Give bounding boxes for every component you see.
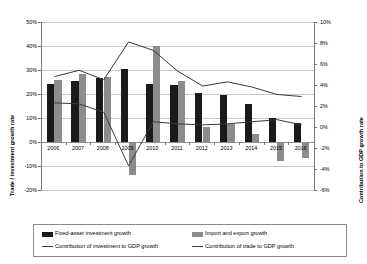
y-axis-left-tick-label: 10% [15,115,37,121]
x-axis-tick-mark [214,142,215,145]
y-axis-left-tick-label: 0% [15,139,37,145]
y-axis-right-tick-mark [314,106,317,107]
x-axis-tick-label: 2016 [288,145,314,151]
y-axis-title-right: Contribution to GDP growth rate [358,117,364,203]
y-axis-left-tick-mark [38,190,41,191]
x-axis-tick-label: 2013 [213,145,239,151]
chart-legend: Fixed-asset investment growth Import and… [33,224,347,257]
x-axis-tick-label: 2014 [238,145,264,151]
x-axis-tick-label: 2007 [65,145,91,151]
y-axis-right-tick-label: 10% [320,19,342,25]
y-axis-right-tick-label: 2% [320,103,342,109]
y-axis-right-tick-label: 0% [320,124,342,130]
x-axis-tick-label: 2015 [263,145,289,151]
x-axis-tick-mark [165,142,166,145]
line-series [54,103,301,166]
x-axis-tick-mark [90,142,91,145]
y-axis-right-tick-label: 6% [320,61,342,67]
x-axis-tick-label: 2012 [189,145,215,151]
y-axis-right-tick-mark [314,43,317,44]
line-group [42,22,314,190]
y-axis-right-tick-mark [314,85,317,86]
x-axis-tick-label: 2009 [115,145,141,151]
y-axis-right-tick-mark [314,190,317,191]
legend-swatch-investment-contribution [42,246,53,247]
y-axis-left-tick-mark [38,70,41,71]
legend-swatch-trade-contribution [192,246,203,247]
legend-label-investment-contribution: Contribution of investment to GDP growth [55,243,158,249]
y-axis-right-tick-label: 4% [320,82,342,88]
y-axis-left-tick-mark [38,94,41,95]
legend-label-fixed-asset: Fixed-asset investment growth [55,230,131,236]
x-axis-tick-mark [189,142,190,145]
y-axis-right-tick-mark [314,169,317,170]
y-axis-right-tick-label: -2% [320,145,342,151]
legend-label-trade-contribution: Contribution of trade to GDP growth [205,243,294,249]
x-axis-tick-label: 2011 [164,145,190,151]
y-axis-left-tick-label: -10% [15,163,37,169]
x-axis-tick-mark [264,142,265,145]
x-axis-tick-mark [140,142,141,145]
legend-swatch-import-export [192,232,203,237]
y-axis-right-tick-mark [314,22,317,23]
x-axis-tick-mark [41,142,42,145]
y-axis-right-tick-mark [314,127,317,128]
y-axis-left-tick-mark [38,118,41,119]
x-axis-tick-mark [288,142,289,145]
x-axis-tick-label: 2010 [139,145,165,151]
y-axis-left-tick-label: 20% [15,91,37,97]
x-axis-tick-mark [66,142,67,145]
x-axis-tick-label: 2006 [40,145,66,151]
y-axis-right-tick-label: -6% [320,187,342,193]
y-axis-right-tick-label: 8% [320,40,342,46]
legend-label-import-export: Import and export growth [205,230,267,236]
chart-container: Trade / investment growth rate Contribut… [0,0,367,264]
y-axis-left-tick-label: 40% [15,43,37,49]
y-axis-title-left: Trade / investment growth rate [9,115,15,196]
line-series [54,42,301,97]
x-axis-tick-mark [115,142,116,145]
y-axis-right-tick-label: -4% [320,166,342,172]
y-axis-right-tick-mark [314,148,317,149]
x-axis-tick-label: 2008 [90,145,116,151]
y-axis-left-tick-label: 50% [15,19,37,25]
y-axis-left-tick-label: -20% [15,187,37,193]
y-axis-left-tick-label: 30% [15,67,37,73]
y-axis-left-tick-mark [38,166,41,167]
y-axis-left-tick-mark [38,46,41,47]
y-axis-left-tick-mark [38,22,41,23]
plot-area [41,22,315,190]
x-axis-tick-mark [239,142,240,145]
gridline [42,190,314,191]
legend-swatch-fixed-asset [42,232,53,237]
y-axis-right-tick-mark [314,64,317,65]
